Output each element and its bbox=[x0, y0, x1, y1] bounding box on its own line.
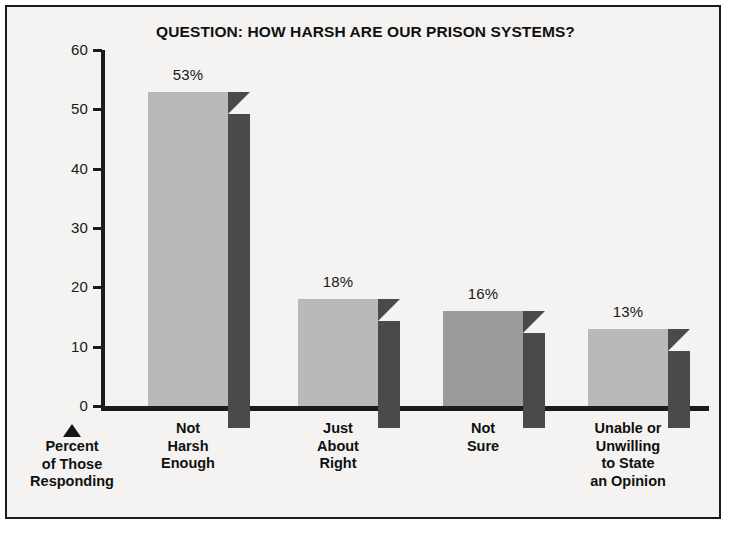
up-triangle-icon bbox=[63, 424, 81, 437]
bar-top-bevel bbox=[228, 92, 250, 114]
y-axis-tick-label: 60 bbox=[42, 41, 88, 58]
y-axis-tick bbox=[93, 49, 102, 52]
y-axis-tick-label: 30 bbox=[42, 219, 88, 236]
bar-side-face bbox=[523, 311, 545, 428]
y-axis-tick-label: 10 bbox=[42, 338, 88, 355]
y-axis-line bbox=[101, 50, 105, 410]
y-axis-tick bbox=[93, 405, 102, 408]
y-axis-tick bbox=[93, 286, 102, 289]
x-axis-baseline bbox=[101, 406, 709, 411]
bar-side-rect bbox=[668, 351, 690, 428]
bar-side-face bbox=[378, 299, 400, 428]
y-axis-tick-label: 20 bbox=[42, 278, 88, 295]
bar-front-face[interactable] bbox=[588, 329, 668, 406]
y-axis-tick-label: 0 bbox=[42, 397, 88, 414]
y-axis-caption: Percent of Those Responding bbox=[8, 424, 136, 491]
y-axis-tick bbox=[93, 227, 102, 230]
bar-value-label: 18% bbox=[288, 273, 388, 290]
y-axis-tick-label: 50 bbox=[42, 100, 88, 117]
y-axis-tick-label: 40 bbox=[42, 160, 88, 177]
bar-top-bevel bbox=[668, 329, 690, 351]
bar-side-rect bbox=[523, 333, 545, 428]
bar-front-face[interactable] bbox=[298, 299, 378, 406]
y-axis-tick bbox=[93, 108, 102, 111]
y-axis-tick bbox=[93, 168, 102, 171]
bar-front-face[interactable] bbox=[443, 311, 523, 406]
bar-front-face[interactable] bbox=[148, 92, 228, 406]
bar-top-bevel bbox=[378, 299, 400, 321]
bar-value-label: 53% bbox=[138, 66, 238, 83]
x-axis-category-label: Not Harsh Enough bbox=[116, 420, 260, 473]
bar-side-rect bbox=[378, 321, 400, 428]
bar-side-face bbox=[668, 329, 690, 428]
bar-top-bevel bbox=[523, 311, 545, 333]
x-axis-category-label: Just About Right bbox=[266, 420, 410, 473]
bar-side-face bbox=[228, 92, 250, 428]
bar-chart-figure: QUESTION: HOW HARSH ARE OUR PRISON SYSTE… bbox=[0, 0, 731, 534]
x-axis-category-label: Unable or Unwilling to State an Opinion bbox=[556, 420, 700, 490]
bar-value-label: 13% bbox=[578, 303, 678, 320]
x-axis-category-label: Not Sure bbox=[411, 420, 555, 455]
bar-value-label: 16% bbox=[433, 285, 533, 302]
y-axis-tick bbox=[93, 346, 102, 349]
y-axis-caption-label: Percent of Those Responding bbox=[8, 438, 136, 491]
bar-side-rect bbox=[228, 114, 250, 428]
chart-title: QUESTION: HOW HARSH ARE OUR PRISON SYSTE… bbox=[0, 23, 731, 41]
